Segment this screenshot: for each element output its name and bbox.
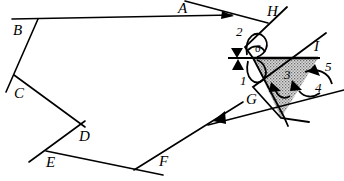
label-angle-2: 2 [236,25,243,38]
label-point-e: E [46,155,55,170]
label-angle-1: 1 [240,74,247,87]
segment-d-to-e [29,121,85,162]
arrowhead-segment-g [213,111,226,124]
tick-arrow-down-icon [231,48,243,58]
label-point-g: G [246,92,257,107]
label-point-b: B [13,23,22,38]
label-point-d: D [79,129,90,144]
segment-a-to-b [12,15,232,19]
label-point-c: C [14,86,24,101]
segment-f-to-g [134,102,243,170]
geometry-figure: A B C D E F G H I 1 2 3 4 5 6 [0,0,344,181]
tick-arrow-up-icon [232,59,244,70]
label-angle-6: 6 [255,43,261,54]
label-angle-5: 5 [325,60,332,73]
label-point-f: F [159,154,168,169]
segment-a-top-right [185,1,268,23]
segment-c-to-d [14,75,85,127]
label-point-i: I [314,39,319,54]
label-angle-4: 4 [315,81,322,94]
label-point-a: A [178,1,187,16]
label-angle-3: 3 [284,68,291,81]
label-point-h: H [267,4,278,19]
